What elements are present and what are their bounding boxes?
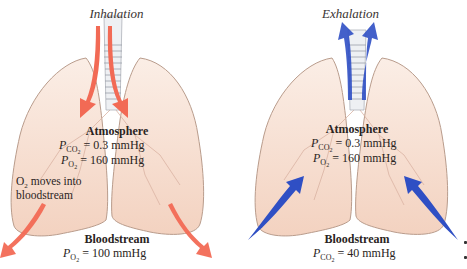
atmosphere-po2: PO2 = 160 mmHg [313, 151, 396, 167]
atmosphere-pco2: PCO2 = 0.3 mmHg [311, 136, 397, 152]
bloodstream-heading: Bloodstream [60, 233, 174, 246]
atmosphere-pco2: PCO2 = 0.3 mmHg [59, 138, 145, 154]
bloodstream-pco2: PCO2 = 40 mmHg [313, 246, 396, 262]
atmosphere-heading: Atmosphere [300, 123, 414, 136]
atmosphere-heading: Atmosphere [60, 125, 174, 138]
inhalation-title: Inhalation [0, 6, 233, 22]
atmosphere-po2: PO2 = 160 mmHg [61, 153, 144, 169]
bloodstream-heading: Bloodstream [300, 233, 414, 246]
bloodstream-po2: PO2 = 100 mmHg [63, 246, 146, 262]
inhalation-panel: Inhalation Atmosphere PCO2 = 0.3 mmHg PO… [0, 0, 233, 269]
o2-moves-note: O2 moves into bloodstream [16, 175, 81, 201]
exhalation-panel: Exhalation Atmosphere PCO2 = 0.3 mmHg PO… [234, 0, 467, 269]
exhalation-title: Exhalation [234, 6, 467, 22]
